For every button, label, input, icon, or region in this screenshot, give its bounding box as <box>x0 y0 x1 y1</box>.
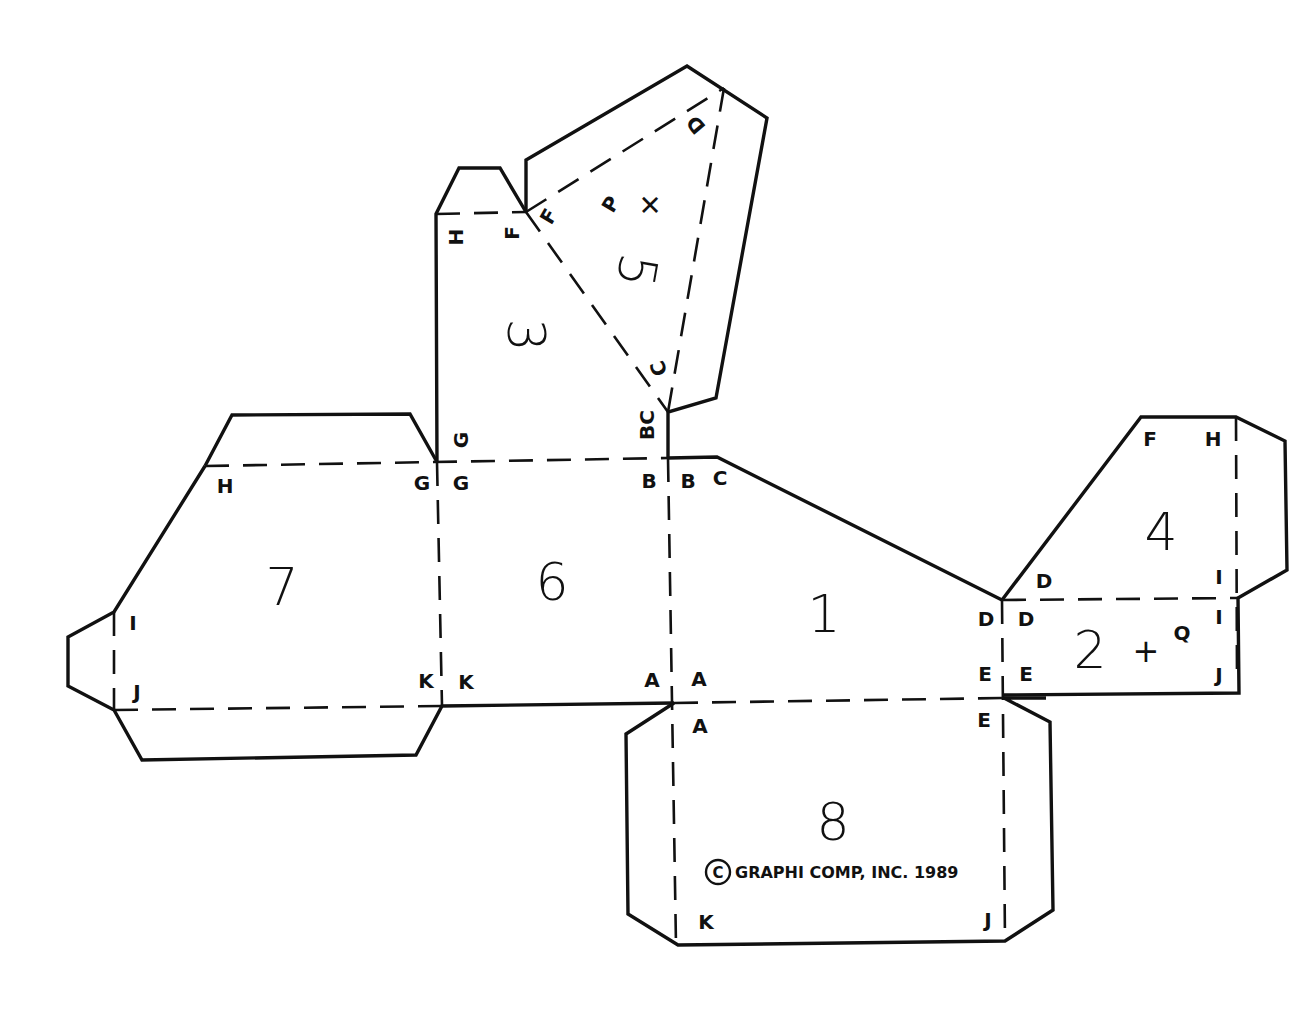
label-p7-i: I <box>129 611 136 635</box>
label-p1-e: E <box>978 662 992 686</box>
cut-lines <box>68 66 1287 945</box>
cross-marker-q: + <box>1133 632 1160 670</box>
label-p2-q: Q <box>1173 621 1190 645</box>
label-p4-h: H <box>1205 427 1222 451</box>
panel-number-6: 6 <box>535 552 568 612</box>
copyright-text: GRAPHI COMP, INC. 1989 <box>735 863 958 882</box>
label-p3-h: H <box>444 229 468 246</box>
panel-number-8: 8 <box>816 792 849 852</box>
markers: + + <box>628 181 1160 670</box>
fold-3-top <box>436 212 526 214</box>
label-p2-j: J <box>1213 663 1222 687</box>
panel-number-5: 5 <box>605 249 670 292</box>
label-p1-c: C <box>713 466 728 490</box>
label-p2-d: D <box>1018 607 1035 631</box>
label-p6-k: K <box>458 670 475 694</box>
panel-number-2: 2 <box>1073 620 1106 680</box>
label-p4-i: I <box>1215 565 1222 589</box>
fold-d-i <box>1002 598 1238 600</box>
label-p8-e: E <box>977 708 991 732</box>
label-p5-c: C <box>645 358 673 380</box>
panel-number-4: 4 <box>1144 502 1177 562</box>
cross-marker-p: + <box>628 181 674 227</box>
label-p2-e: E <box>1019 662 1033 686</box>
fold-a-e <box>674 698 1004 703</box>
label-p5-p: P <box>597 192 625 217</box>
panel-number-7: 7 <box>265 557 298 617</box>
label-p1-a: A <box>691 667 707 691</box>
label-p6-a: A <box>644 668 660 692</box>
label-p7-j: J <box>131 680 140 704</box>
label-p4-f: F <box>1143 427 1157 451</box>
label-p7-h: H <box>217 474 234 498</box>
fold-lines <box>114 88 1238 945</box>
panel-number-1: 1 <box>807 584 840 644</box>
label-p2-i: I <box>1215 605 1222 629</box>
label-p5-f: F <box>535 204 563 228</box>
panel-number-3: 3 <box>496 318 556 351</box>
label-p1-b: B <box>680 469 695 493</box>
label-p8-a: A <box>692 714 708 738</box>
label-p4-d: D <box>1036 569 1053 593</box>
vertex-labels: H F F P D C BC G H G G B B C F H D I D D… <box>129 111 1222 934</box>
copyright-notice: C GRAPHI COMP, INC. 1989 <box>706 860 958 884</box>
label-p3-f: F <box>500 226 524 240</box>
fold-g-k <box>437 462 442 706</box>
fold-j-k <box>114 706 442 710</box>
label-p8-j: J <box>982 908 991 932</box>
label-p7-k: K <box>418 669 435 693</box>
label-p3-bc: BC <box>635 410 659 440</box>
fold-5-fd <box>526 88 724 212</box>
label-p1-d: D <box>978 607 995 631</box>
label-p7-g: G <box>414 471 430 495</box>
fold-d-e-j <box>1002 600 1005 941</box>
fold-5-fc <box>526 212 668 412</box>
panel-7-outline <box>68 466 674 760</box>
label-p6-g-top: G <box>449 432 473 448</box>
paper-model-net: 3 5 7 6 1 4 2 8 + + H F F P D C BC G H G… <box>0 0 1295 1014</box>
label-p6-g: G <box>453 471 469 495</box>
label-p8-k: K <box>698 910 715 934</box>
panel-7-top-tab <box>205 414 437 466</box>
copyright-symbol: C <box>712 864 723 882</box>
label-p6-b: B <box>641 469 656 493</box>
label-p5-d: D <box>681 111 710 139</box>
